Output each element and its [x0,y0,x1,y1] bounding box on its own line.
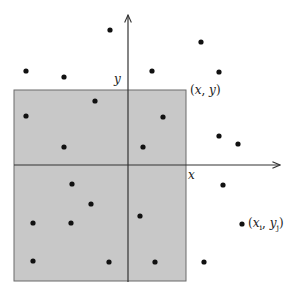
data-point [235,141,240,146]
data-point [88,201,93,206]
data-point [23,68,28,73]
data-point [140,144,145,149]
data-point [106,259,111,264]
cumulative-region-diagram [0,0,302,295]
data-point [92,98,97,103]
data-point [201,259,206,264]
data-point [152,259,157,264]
data-point [23,113,28,118]
data-point [239,221,244,226]
sample-point-label: (xi, yj) [248,216,284,232]
corner-point-label: (x, y) [190,83,221,97]
data-point [137,213,142,218]
data-point [61,74,66,79]
y-axis-label: y [114,72,121,86]
data-point [30,258,35,263]
data-point [220,182,225,187]
data-point [216,133,221,138]
data-point [30,220,35,225]
x-axis-label: x [188,168,195,182]
data-point [160,114,165,119]
data-point [69,181,74,186]
data-point [198,39,203,44]
shaded-region [14,90,186,281]
data-point [107,27,112,32]
data-point [61,144,66,149]
data-point [216,69,221,74]
data-point [149,68,154,73]
data-point [68,220,73,225]
